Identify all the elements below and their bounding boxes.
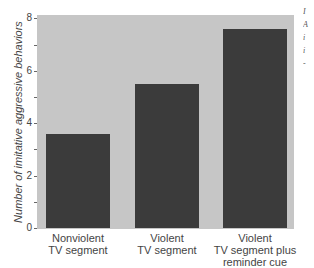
y-tick-mark (34, 71, 37, 72)
bar (223, 29, 287, 228)
clipped-text-fragment: - (303, 58, 314, 70)
clipped-text-fragment: I (303, 6, 314, 18)
y-tick-mark (34, 123, 37, 124)
y-tick-mark (34, 228, 37, 229)
x-category-label: NonviolentTV segment (28, 232, 128, 256)
y-tick-label: 2 (26, 171, 32, 181)
y-tick-label: 4 (26, 118, 32, 128)
y-tick-mark (34, 45, 37, 46)
y-tick-mark (34, 97, 37, 98)
bar (135, 84, 199, 228)
y-tick-mark (34, 202, 37, 203)
y-tick-mark (34, 149, 37, 150)
y-tick-label: 6 (26, 66, 32, 76)
clipped-text-fragment: i (303, 45, 314, 57)
clipped-text-fragment: i (303, 32, 314, 44)
x-category-label: ViolentTV segment (117, 232, 217, 256)
y-tick-label: 8 (26, 13, 32, 23)
clipped-text-fragment: A (303, 19, 314, 31)
x-category-label: ViolentTV segment plusreminder cue (205, 232, 305, 268)
y-tick-mark (34, 18, 37, 19)
bar-chart: 02468 Number of imitative aggressive beh… (0, 0, 314, 268)
y-tick-mark (34, 176, 37, 177)
y-axis-title: Number of imitative aggressive behaviors (12, 12, 24, 232)
bar (46, 134, 110, 228)
